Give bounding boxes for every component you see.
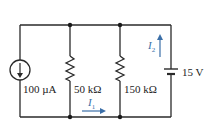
battery-icon [164,69,178,74]
junction-dot [118,115,122,119]
junction-dot [68,23,72,27]
resistor-1-label: 50 kΩ [74,84,101,95]
current-i2-label: I2 [148,40,155,54]
resistor-150k-icon [116,56,124,81]
current-source-label: 100 µA [23,84,57,95]
current-source-arrow-icon [17,63,23,78]
current-i1-label: I1 [88,97,95,111]
junction-dot [118,23,122,27]
junction-dot [68,115,72,119]
current-i2-arrow-icon [157,34,163,57]
resistor-2-label: 150 kΩ [124,84,157,95]
voltage-source-label: 15 V [182,67,204,78]
resistor-50k-icon [66,56,74,81]
